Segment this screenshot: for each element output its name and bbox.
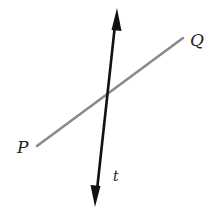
arrow-up-icon (112, 8, 122, 31)
transversal-line-t (97, 25, 115, 190)
label-t: t (113, 168, 119, 184)
label-p: P (16, 137, 29, 157)
line-pq (37, 38, 183, 146)
label-q: Q (190, 30, 204, 50)
arrow-down-icon (91, 185, 101, 207)
diagram-canvas: Q P t (0, 0, 219, 209)
